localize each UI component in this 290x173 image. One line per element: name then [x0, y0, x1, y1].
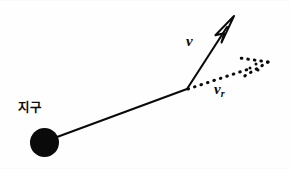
- radial-velocity-arrowhead-dot-c: [257, 69, 260, 72]
- earth-label: 지구: [18, 102, 43, 115]
- radial-velocity-label-base: v: [214, 81, 221, 97]
- velocity-vector-label: v: [186, 34, 193, 49]
- radius-line: [57, 89, 187, 137]
- radial-velocity-label-subscript: r: [221, 88, 225, 99]
- radial-velocity-vector-label: vr: [214, 82, 225, 99]
- vector-diagram-figure: 지구 v vr: [0, 0, 290, 173]
- radial-velocity-arrowhead-dot-a: [255, 63, 258, 66]
- earth-body: [30, 128, 59, 157]
- radial-velocity-arrowhead-dot-b: [249, 67, 252, 70]
- diagram-canvas: [0, 0, 290, 173]
- radial-velocity-arrowhead-upper: [240, 58, 268, 62]
